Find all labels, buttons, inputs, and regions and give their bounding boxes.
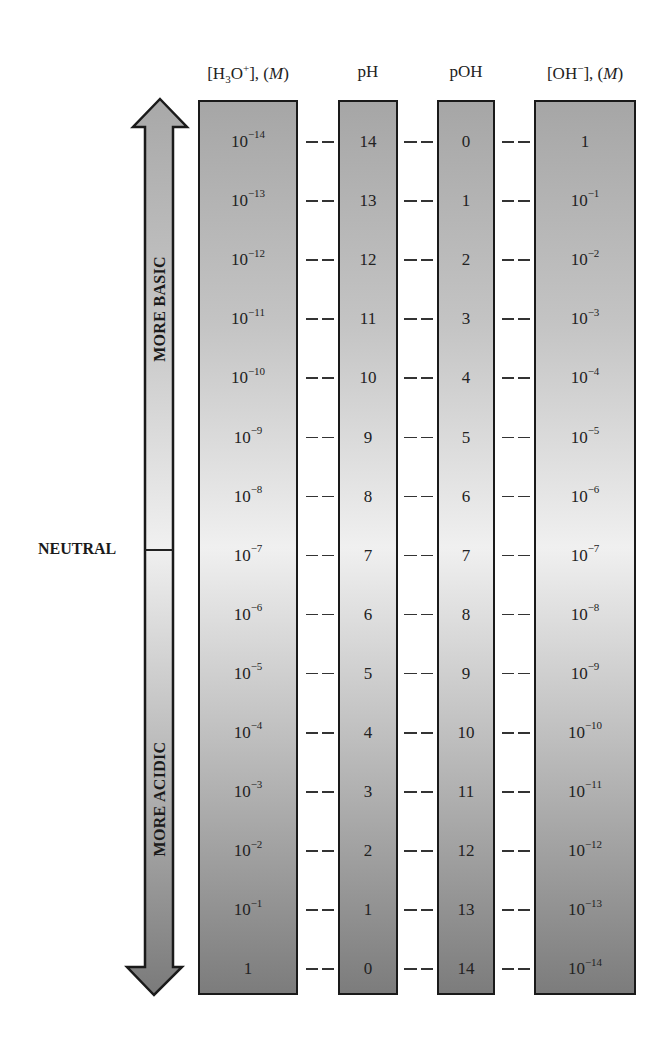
h3o-cell-value: 10 xyxy=(234,841,251,860)
dash-segment xyxy=(306,909,318,911)
h3o-cell-value: 10 xyxy=(234,782,251,801)
h3o-cell-value: 10 xyxy=(234,664,251,683)
dash-segment xyxy=(322,968,334,970)
poh-cell-value: 13 xyxy=(458,900,475,919)
ph-cell: 4 xyxy=(340,723,396,743)
h3o-cell: 10−7 xyxy=(200,546,296,566)
dash-segment xyxy=(502,850,514,852)
dash-segment xyxy=(306,968,318,970)
h3o-cell-exponent: −2 xyxy=(251,838,263,850)
dash-segment xyxy=(421,732,434,734)
h3o-concentration-column: 10−1410−1310−1210−1110−1010−910−810−710−… xyxy=(198,100,298,995)
oh-cell-exponent: −3 xyxy=(588,306,600,318)
dash-segment xyxy=(306,377,318,379)
poh-cell: 7 xyxy=(439,546,493,566)
dash-segment xyxy=(404,496,417,498)
h3o-cell-exponent: −1 xyxy=(251,897,263,909)
ph-cell-value: 12 xyxy=(360,250,377,269)
poh-cell: 0 xyxy=(439,132,493,152)
dash-segment xyxy=(306,673,318,675)
oh-cell: 10−6 xyxy=(536,487,634,507)
dash-segment xyxy=(322,673,334,675)
dash-segment xyxy=(421,496,434,498)
ph-cell: 14 xyxy=(340,132,396,152)
oh-cell: 10−5 xyxy=(536,428,634,448)
dash-segment xyxy=(322,850,334,852)
dash-segment xyxy=(421,437,434,439)
ph-cell-value: 3 xyxy=(364,782,373,801)
dash-segment xyxy=(421,259,434,261)
ph-cell-value: 8 xyxy=(364,487,373,506)
poh-cell: 6 xyxy=(439,487,493,507)
dash-segment xyxy=(518,968,530,970)
oh-cell: 10−10 xyxy=(536,723,634,743)
oh-cell-exponent: −8 xyxy=(588,601,600,613)
dash-segment xyxy=(421,377,434,379)
oh-cell: 10−1 xyxy=(536,191,634,211)
dash-segment xyxy=(518,791,530,793)
h3o-cell: 1 xyxy=(200,959,296,979)
dash-segment xyxy=(421,141,434,143)
dash-segment xyxy=(421,909,434,911)
dash-segment xyxy=(404,968,417,970)
poh-column: 01234567891011121314 xyxy=(437,100,495,995)
dash-segment xyxy=(306,437,318,439)
dash-segment xyxy=(322,496,334,498)
ph-column: 14131211109876543210 xyxy=(338,100,398,995)
dash-segment xyxy=(518,909,530,911)
dash-segment xyxy=(518,555,530,557)
oh-cell-value: 10 xyxy=(571,487,588,506)
oh-concentration-column: 110−110−210−310−410−510−610−710−810−910−… xyxy=(534,100,636,995)
more-acidic-label: MORE ACIDIC xyxy=(151,734,169,864)
poh-cell-value: 4 xyxy=(462,368,471,387)
dash-segment xyxy=(306,732,318,734)
dash-segment xyxy=(518,673,530,675)
oh-cell: 10−11 xyxy=(536,782,634,802)
dash-segment xyxy=(322,791,334,793)
ph-cell-value: 14 xyxy=(360,132,377,151)
dash-segment xyxy=(306,259,318,261)
ph-cell-value: 1 xyxy=(364,900,373,919)
dash-segment xyxy=(502,673,514,675)
h3o-cell-value: 10 xyxy=(231,250,248,269)
ph-cell: 1 xyxy=(340,900,396,920)
ph-cell: 12 xyxy=(340,250,396,270)
h3o-cell-value: 10 xyxy=(234,605,251,624)
h3o-cell: 10−1 xyxy=(200,900,296,920)
h3o-cell-value: 10 xyxy=(234,487,251,506)
h3o-cell: 10−10 xyxy=(200,368,296,388)
oh-cell-value: 10 xyxy=(571,605,588,624)
dash-segment xyxy=(404,318,417,320)
dash-segment xyxy=(518,437,530,439)
ph-cell: 2 xyxy=(340,841,396,861)
dash-segment xyxy=(322,259,334,261)
dash-segment xyxy=(322,377,334,379)
neutral-marker-line xyxy=(145,549,173,551)
dash-segment xyxy=(518,377,530,379)
h3o-cell-exponent: −10 xyxy=(248,365,265,377)
h3o-cell-value: 10 xyxy=(234,546,251,565)
h3o-cell: 10−4 xyxy=(200,723,296,743)
oh-cell-exponent: −4 xyxy=(588,365,600,377)
poh-cell: 12 xyxy=(439,841,493,861)
dash-segment xyxy=(306,318,318,320)
dash-segment xyxy=(421,673,434,675)
oh-cell-value: 10 xyxy=(571,191,588,210)
neutral-label: NEUTRAL xyxy=(38,540,116,558)
oh-cell-exponent: −6 xyxy=(588,483,600,495)
dash-segment xyxy=(518,259,530,261)
poh-cell: 8 xyxy=(439,605,493,625)
h3o-cell-exponent: −9 xyxy=(251,424,263,436)
oh-cell-value: 10 xyxy=(571,664,588,683)
oh-cell-value: 10 xyxy=(571,368,588,387)
oh-cell: 10−14 xyxy=(536,959,634,979)
oh-cell: 10−13 xyxy=(536,900,634,920)
dash-segment xyxy=(502,437,514,439)
oh-cell: 10−4 xyxy=(536,368,634,388)
dash-segment xyxy=(306,200,318,202)
dash-segment xyxy=(502,968,514,970)
oh-cell-value: 10 xyxy=(571,309,588,328)
dash-segment xyxy=(502,200,514,202)
ph-cell: 5 xyxy=(340,664,396,684)
oh-cell: 10−12 xyxy=(536,841,634,861)
